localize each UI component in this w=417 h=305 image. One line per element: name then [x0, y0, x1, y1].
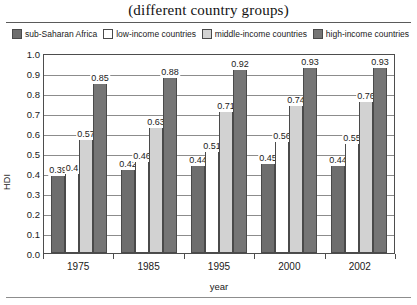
- bar-slot: 0.39: [51, 55, 65, 253]
- bar-1975-0[interactable]: 0.39: [51, 175, 65, 253]
- bar-slot: 0.46: [135, 55, 149, 253]
- y-tick-label-3: 0.7: [27, 109, 40, 120]
- x-axis-tick-marks: [43, 254, 395, 260]
- x-axis-tick-labels: 19751985199520002002: [43, 261, 395, 272]
- legend-item-2[interactable]: middle-income countries: [202, 29, 307, 39]
- y-axis-ticks: 1.00.90.80.70.60.50.40.30.20.10.0: [14, 54, 40, 254]
- x-tick-mark-0: [43, 254, 44, 259]
- y-tick-label-4: 0.6: [27, 129, 40, 140]
- bar-slot: 0.57: [79, 55, 93, 253]
- legend-swatch-middle-income: [202, 29, 212, 39]
- legend-swatch-high-income: [313, 29, 323, 39]
- y-tick-label-10: 0.0: [27, 249, 40, 260]
- legend-swatch-sub-saharan-africa: [12, 29, 22, 39]
- bar-1985-3[interactable]: 0.88: [163, 77, 177, 253]
- y-axis-label: HDI: [2, 174, 12, 190]
- x-tick-label-2002: 2002: [349, 261, 371, 272]
- bar-slot: 0.92: [233, 55, 247, 253]
- y-tick-label-8: 0.2: [27, 209, 40, 220]
- bar-slot: 0.44: [191, 55, 205, 253]
- bar-slot: 0.76: [359, 55, 373, 253]
- bar-slot: 0.88: [163, 55, 177, 253]
- x-tick-label-2000: 2000: [278, 261, 300, 272]
- bar-1995-2[interactable]: 0.71: [219, 111, 233, 253]
- bar-value-label: 0.93: [370, 58, 390, 68]
- x-tick-mark-4: [325, 254, 326, 259]
- bar-slot: 0.63: [149, 55, 163, 253]
- bar-1975-3[interactable]: 0.85: [93, 83, 107, 253]
- legend-item-0[interactable]: sub-Saharan Africa: [12, 29, 97, 39]
- bars-layer: 0.390.40.570.850.420.460.630.880.440.510…: [44, 55, 394, 253]
- bar-2002-1[interactable]: 0.55: [345, 143, 359, 253]
- bar-1975-1[interactable]: 0.4: [65, 173, 79, 253]
- bar-slot: 0.51: [205, 55, 219, 253]
- bar-2000-1[interactable]: 0.56: [275, 141, 289, 253]
- bar-slot: 0.45: [261, 55, 275, 253]
- bar-slot: 0.74: [289, 55, 303, 253]
- bar-slot: 0.44: [331, 55, 345, 253]
- page-title: (different country groups): [0, 0, 417, 19]
- bar-1985-2[interactable]: 0.63: [149, 127, 163, 253]
- bar-2002-3[interactable]: 0.93: [373, 67, 387, 253]
- bar-slot: 0.71: [219, 55, 233, 253]
- x-tick-mark-5: [395, 254, 396, 259]
- y-tick-label-0: 1.0: [27, 49, 40, 60]
- bar-1975-2[interactable]: 0.57: [79, 139, 93, 253]
- bar-1995-1[interactable]: 0.51: [205, 151, 219, 253]
- x-tick-label-1995: 1995: [208, 261, 230, 272]
- x-tick-label-1985: 1985: [137, 261, 159, 272]
- y-tick-label-5: 0.5: [27, 149, 40, 160]
- bar-value-label: 0.88: [160, 68, 180, 78]
- legend-item-3[interactable]: high-income countries: [313, 29, 409, 39]
- bar-1995-3[interactable]: 0.92: [233, 69, 247, 253]
- plot-area: 0.390.40.570.850.420.460.630.880.440.510…: [43, 54, 395, 254]
- y-tick-label-6: 0.4: [27, 169, 40, 180]
- bar-2002-0[interactable]: 0.44: [331, 165, 345, 253]
- x-tick-mark-2: [184, 254, 185, 259]
- bar-slot: 0.55: [345, 55, 359, 253]
- bar-2000-2[interactable]: 0.74: [289, 105, 303, 253]
- bar-value-label: 0.92: [230, 60, 250, 70]
- bar-group-1975: 0.390.40.570.85: [51, 55, 107, 253]
- bar-2000-0[interactable]: 0.45: [261, 163, 275, 253]
- bar-2002-2[interactable]: 0.76: [359, 101, 373, 253]
- x-tick-mark-3: [254, 254, 255, 259]
- x-tick-mark-1: [113, 254, 114, 259]
- y-tick-label-7: 0.3: [27, 189, 40, 200]
- chart-legend: sub-Saharan Africalow-income countriesmi…: [0, 23, 417, 42]
- y-tick-label-9: 0.1: [27, 229, 40, 240]
- bar-value-label: 0.4: [65, 164, 80, 174]
- footer-divider: [6, 297, 411, 298]
- bar-slot: 0.93: [373, 55, 387, 253]
- bar-group-1995: 0.440.510.710.92: [191, 55, 247, 253]
- bar-group-2002: 0.440.550.760.93: [331, 55, 387, 253]
- bar-value-label: 0.85: [90, 74, 110, 84]
- bar-2000-3[interactable]: 0.93: [303, 67, 317, 253]
- bar-1985-0[interactable]: 0.42: [121, 169, 135, 253]
- bar-value-label: 0.93: [300, 58, 320, 68]
- bar-slot: 0.56: [275, 55, 289, 253]
- legend-label-2: middle-income countries: [215, 30, 307, 39]
- y-tick-label-2: 0.8: [27, 89, 40, 100]
- x-axis-label: year: [43, 281, 395, 292]
- legend-swatch-low-income: [103, 29, 113, 39]
- plot-wrapper: HDI 1.00.90.80.70.60.50.40.30.20.10.0 0.…: [0, 50, 417, 295]
- bar-slot: 0.4: [65, 55, 79, 253]
- x-tick-label-1975: 1975: [67, 261, 89, 272]
- legend-label-3: high-income countries: [326, 30, 409, 39]
- bar-slot: 0.93: [303, 55, 317, 253]
- bar-slot: 0.85: [93, 55, 107, 253]
- bar-group-1985: 0.420.460.630.88: [121, 55, 177, 253]
- bar-1995-0[interactable]: 0.44: [191, 165, 205, 253]
- legend-item-1[interactable]: low-income countries: [103, 29, 196, 39]
- bar-1985-1[interactable]: 0.46: [135, 161, 149, 253]
- bar-group-2000: 0.450.560.740.93: [261, 55, 317, 253]
- legend-label-1: low-income countries: [116, 30, 196, 39]
- legend-label-0: sub-Saharan Africa: [25, 30, 97, 39]
- y-tick-label-1: 0.9: [27, 69, 40, 80]
